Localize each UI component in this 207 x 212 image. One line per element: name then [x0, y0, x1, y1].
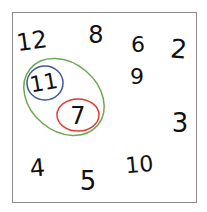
number-4: 4 — [28, 153, 46, 182]
number-7: 7 — [70, 102, 85, 130]
diagram-canvas: 12862119734510 — [0, 0, 207, 212]
circles-layer — [8, 43, 119, 152]
number-5: 5 — [80, 166, 97, 196]
number-8: 8 — [88, 21, 103, 49]
number-3: 3 — [172, 108, 189, 138]
number-12: 12 — [15, 25, 49, 57]
number-11: 11 — [28, 68, 60, 97]
numbers-layer: 12862119734510 — [15, 21, 189, 196]
number-9: 9 — [130, 64, 144, 89]
number-2: 2 — [169, 33, 188, 64]
number-6: 6 — [131, 32, 145, 57]
number-10: 10 — [124, 151, 154, 178]
green-ellipse — [8, 43, 119, 152]
